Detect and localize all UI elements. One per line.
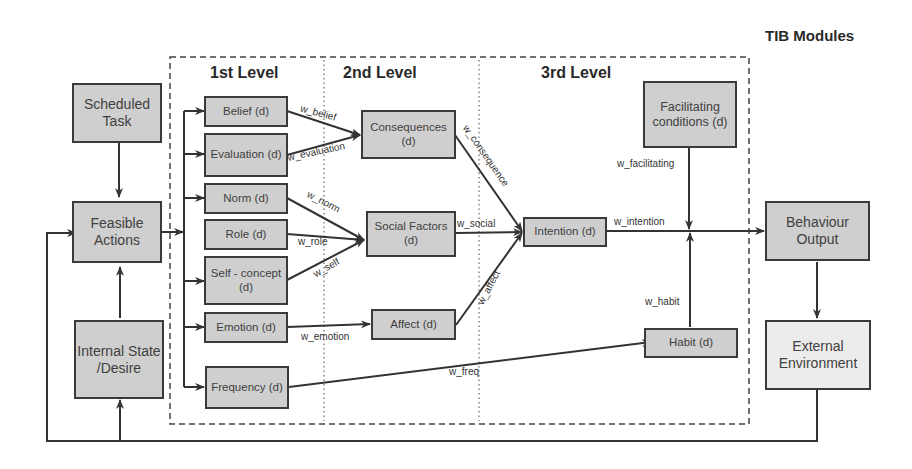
node-internal-state: Internal State /Desire: [74, 320, 164, 399]
node-consequences: Consequences (d): [361, 110, 456, 159]
label-w-facilitating: w_facilitating: [617, 158, 674, 169]
label-w-emotion: w_emotion: [301, 331, 349, 342]
node-role: Role (d): [204, 219, 288, 250]
node-evaluation: Evaluation (d): [204, 133, 288, 177]
label-w-social: w_social: [457, 218, 495, 229]
node-frequency: Frequency (d): [205, 366, 289, 409]
node-self-concept: Self - concept (d): [204, 256, 288, 305]
label-w-habit: w_habit: [645, 296, 679, 307]
node-facilitating-conditions: Facilitating conditions (d): [643, 81, 737, 148]
node-norm: Norm (d): [204, 183, 288, 214]
level-title-1: 1st Level: [210, 64, 278, 82]
level-title-3: 3rd Level: [541, 64, 611, 82]
node-feasible-actions: Feasible Actions: [72, 201, 162, 263]
level-title-2: 2nd Level: [343, 64, 417, 82]
label-w-role: w_role: [298, 236, 327, 247]
node-affect: Affect (d): [371, 309, 456, 340]
label-w-intention: w_intention: [614, 216, 665, 227]
node-scheduled-task: Scheduled Task: [72, 83, 162, 143]
node-habit: Habit (d): [644, 328, 738, 358]
tib-modules-title: TIB Modules: [765, 27, 854, 44]
node-social-factors: Social Factors (d): [366, 211, 456, 257]
node-emotion: Emotion (d): [204, 312, 288, 343]
node-behaviour-output: Behaviour Output: [765, 201, 870, 261]
label-w-freq: w_freq: [449, 366, 479, 377]
node-external-environment: External Environment: [765, 320, 871, 390]
node-belief: Belief (d): [204, 96, 288, 127]
node-intention: Intention (d): [523, 217, 607, 247]
